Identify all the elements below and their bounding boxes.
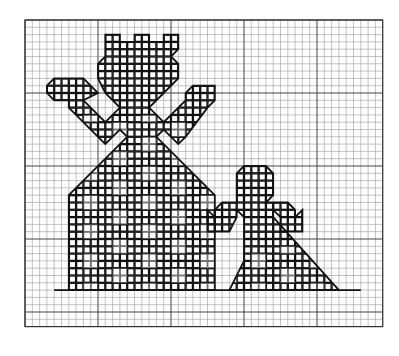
pattern-chart [0,0,399,356]
graph-paper-chart [0,0,399,356]
